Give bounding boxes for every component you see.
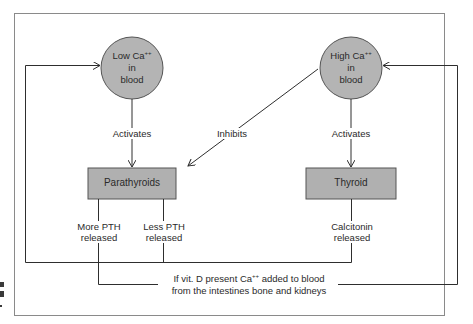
high-ca-sup: ++ [365,50,372,56]
inhibits-label: Inhibits [212,128,252,139]
margin-mark [0,282,4,287]
low-ca-sup: ++ [145,50,152,56]
vit-d-label: If vit. D present Ca++ added to blood fr… [160,273,338,297]
calcitonin-label: Calcitonin released [325,221,379,243]
inhibits-arrow [188,69,318,166]
less-pth-line1: Less PTH [143,221,185,232]
high-ca-line1: High Ca [330,50,364,61]
high-ca-label: High Ca++ in blood [320,50,382,86]
more-pth-label: More PTH released [74,221,124,243]
high-ca-line3: blood [339,74,362,85]
low-ca-line3: blood [120,74,143,85]
low-ca-line1: Low Ca [112,50,144,61]
parathyroids-label: Parathyroids [88,177,176,188]
calcitonin-line2: released [334,232,370,243]
high-activates-label: Activates [327,128,375,139]
vit-d-line1b: added to blood [259,273,325,284]
margin-mark [0,291,4,297]
calcitonin-line1: Calcitonin [331,221,373,232]
margin-mark [0,305,2,307]
low-ca-label: Low Ca++ in blood [101,50,163,86]
vit-d-line2: from the intestines bone and kidneys [172,285,327,296]
less-pth-label: Less PTH released [140,221,188,243]
low-activates-label: Activates [108,128,156,139]
high-ca-line2: in [347,62,354,73]
more-pth-line2: released [81,232,117,243]
less-pth-line2: released [146,232,182,243]
thyroid-label: Thyroid [306,177,396,188]
vit-d-line1a: If vit. D present Ca [173,273,252,284]
more-pth-line1: More PTH [77,221,120,232]
low-ca-line2: in [128,62,135,73]
